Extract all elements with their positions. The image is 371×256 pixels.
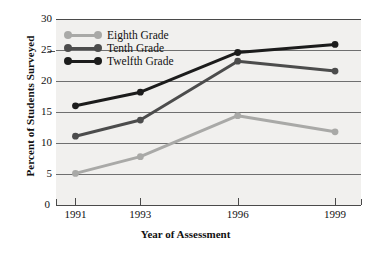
y-axis-tick-label-15: 15 (26, 105, 52, 117)
x-axis-end-cap-right (361, 199, 362, 205)
x-axis-tick-1996 (238, 198, 239, 205)
legend-swatch-icon (64, 30, 102, 41)
data-point-tenth-grade-1993 (137, 117, 144, 124)
data-point-eighth-grade-1999 (332, 128, 339, 135)
data-point-twelfth-grade-1991 (72, 102, 79, 109)
x-axis-tick-1993 (140, 198, 141, 205)
x-axis-end-cap-left (56, 199, 57, 205)
x-axis-tick-1999 (335, 198, 336, 205)
legend-label: Tenth Grade (107, 42, 164, 54)
x-axis-tick-label-1999: 1999 (315, 208, 355, 220)
data-point-twelfth-grade-1999 (332, 41, 339, 48)
legend-swatch-icon (64, 43, 102, 54)
data-point-twelfth-grade-1996 (234, 49, 241, 56)
legend-item-tenth-grade: Tenth Grade (64, 42, 174, 54)
legend: Eighth GradeTenth GradeTwelfth Grade (64, 29, 174, 68)
data-point-twelfth-grade-1993 (137, 89, 144, 96)
x-axis-tick-label-1991: 1991 (55, 208, 95, 220)
data-point-tenth-grade-1996 (234, 58, 241, 65)
legend-label: Twelfth Grade (107, 55, 174, 67)
legend-label: Eighth Grade (107, 29, 169, 41)
legend-item-eighth-grade: Eighth Grade (64, 29, 174, 41)
data-point-tenth-grade-1999 (332, 68, 339, 75)
legend-item-twelfth-grade: Twelfth Grade (64, 55, 174, 67)
line-chart: Percent of Students Surveyed 51015202530… (0, 0, 371, 256)
y-axis-tick-label-25: 25 (26, 43, 52, 55)
data-point-eighth-grade-1991 (72, 170, 79, 177)
x-axis-tick-label-1993: 1993 (120, 208, 160, 220)
data-point-tenth-grade-1991 (72, 133, 79, 140)
y-axis-tick-label-10: 10 (26, 136, 52, 148)
data-point-eighth-grade-1993 (137, 153, 144, 160)
x-axis-tick-1991 (75, 198, 76, 205)
data-point-eighth-grade-1996 (234, 112, 241, 119)
y-axis-tick-label-30: 30 (26, 12, 52, 24)
legend-swatch-icon (64, 56, 102, 67)
x-axis-title: Year of Assessment (0, 228, 371, 240)
x-axis-line (56, 205, 361, 206)
series-line-eighth-grade (75, 116, 335, 174)
y-axis-tick-label-5: 5 (26, 167, 52, 179)
y-axis-tick-label-0: 0 (30, 198, 50, 210)
y-axis-tick-label-20: 20 (26, 74, 52, 86)
x-axis-tick-label-1996: 1996 (218, 208, 258, 220)
